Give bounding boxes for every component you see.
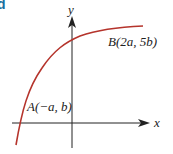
x-axis-label: x (153, 115, 160, 130)
x-axis (12, 119, 150, 127)
point-b-label: B(2a, 5b) (108, 34, 157, 49)
graph: x y B(2a, 5b) A(−a, b) (0, 0, 173, 154)
y-axis-label: y (66, 2, 74, 17)
point-a-label: A(−a, b) (26, 99, 72, 114)
y-axis (68, 16, 76, 148)
